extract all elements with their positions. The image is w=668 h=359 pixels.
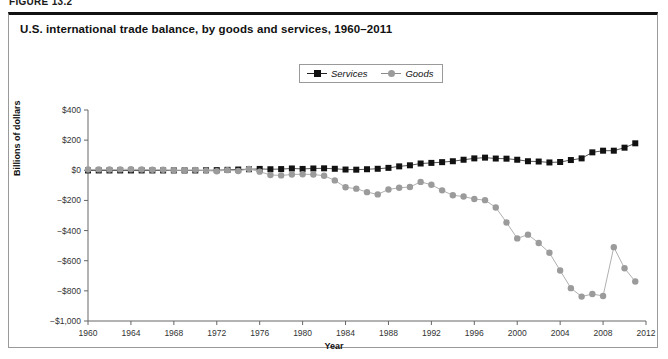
data-point-goods <box>149 166 155 172</box>
data-point-goods <box>138 166 144 172</box>
data-point-goods <box>171 167 177 173</box>
data-point-goods <box>578 293 584 299</box>
y-axis-tick-label: −$400 <box>57 226 81 236</box>
x-axis-tick-label: 1984 <box>336 328 355 338</box>
data-point-goods <box>364 189 370 195</box>
series-line-services <box>88 143 635 170</box>
x-axis-tick-label: 1968 <box>164 328 183 338</box>
data-point-goods <box>278 172 284 178</box>
data-point-services <box>461 157 467 163</box>
x-axis-tick-label: 2004 <box>551 328 570 338</box>
data-point-services <box>385 165 391 171</box>
data-point-goods <box>235 168 241 174</box>
data-point-services <box>278 166 284 172</box>
data-point-goods <box>246 166 252 172</box>
x-axis-tick-label: 1988 <box>379 328 398 338</box>
data-point-goods <box>214 168 220 174</box>
data-point-goods <box>471 196 477 202</box>
data-point-goods <box>439 187 445 193</box>
data-point-goods <box>428 182 434 188</box>
line-chart-plot: $400$200$0−$200−$400−$600−$800−$1,000196… <box>0 0 668 359</box>
data-point-goods <box>332 177 338 183</box>
data-point-services <box>321 165 327 171</box>
data-point-goods <box>514 235 520 241</box>
data-point-goods <box>267 172 273 178</box>
data-point-services <box>514 157 520 163</box>
data-point-services <box>568 157 574 163</box>
data-point-services <box>611 148 617 154</box>
data-point-services <box>310 165 316 171</box>
y-axis-tick-label: $400 <box>62 105 81 115</box>
data-point-goods <box>535 240 541 246</box>
data-point-goods <box>493 204 499 210</box>
y-axis-tick-label: $200 <box>62 135 81 145</box>
data-point-services <box>343 167 349 173</box>
data-point-goods <box>460 193 466 199</box>
data-point-goods <box>289 171 295 177</box>
data-point-services <box>493 156 499 162</box>
data-point-services <box>375 166 381 172</box>
data-point-services <box>525 158 531 164</box>
data-point-goods <box>96 166 102 172</box>
x-axis-tick-label: 2012 <box>637 328 656 338</box>
series-line-goods <box>88 169 635 297</box>
data-point-goods <box>256 168 262 174</box>
data-point-goods <box>503 219 509 225</box>
data-point-goods <box>482 197 488 203</box>
data-point-goods <box>353 185 359 191</box>
data-point-goods <box>557 267 563 273</box>
data-point-services <box>267 166 273 172</box>
data-point-services <box>439 159 445 165</box>
data-point-services <box>482 155 488 161</box>
data-point-goods <box>321 173 327 179</box>
x-axis-tick-label: 2008 <box>594 328 613 338</box>
data-point-goods <box>621 265 627 271</box>
data-point-goods <box>525 231 531 237</box>
data-point-goods <box>117 166 123 172</box>
data-point-services <box>546 159 552 165</box>
data-point-services <box>589 149 595 155</box>
data-point-goods <box>85 166 91 172</box>
data-point-services <box>450 158 456 164</box>
x-axis-tick-label: 1960 <box>79 328 98 338</box>
y-axis-tick-label: −$800 <box>57 286 81 296</box>
x-axis-tick-label: 1964 <box>121 328 140 338</box>
data-point-goods <box>450 192 456 198</box>
data-point-services <box>396 163 402 169</box>
data-point-goods <box>417 179 423 185</box>
data-point-goods <box>224 167 230 173</box>
y-axis-tick-label: −$600 <box>57 256 81 266</box>
data-point-services <box>289 165 295 171</box>
y-axis-tick-label: $0 <box>72 165 82 175</box>
data-point-services <box>471 155 477 161</box>
data-point-services <box>428 160 434 166</box>
data-point-goods <box>106 166 112 172</box>
y-axis-title: Billions of dollars <box>12 100 22 176</box>
x-axis-tick-label: 2000 <box>508 328 527 338</box>
data-point-goods <box>385 186 391 192</box>
data-point-services <box>332 166 338 172</box>
x-axis-tick-label: 1972 <box>207 328 226 338</box>
data-point-goods <box>407 184 413 190</box>
data-point-services <box>364 166 370 172</box>
data-point-services <box>418 161 424 167</box>
data-point-goods <box>310 171 316 177</box>
data-point-goods <box>299 171 305 177</box>
data-point-goods <box>611 244 617 250</box>
figure-page: FIGURE 13.2 U.S. international trade bal… <box>0 0 668 359</box>
data-point-goods <box>600 293 606 299</box>
data-point-goods <box>181 167 187 173</box>
x-axis-title: Year <box>0 341 668 351</box>
data-point-goods <box>203 167 209 173</box>
data-point-goods <box>128 166 134 172</box>
data-point-services <box>557 159 563 165</box>
data-point-services <box>632 140 638 146</box>
x-axis-tick-label: 1996 <box>465 328 484 338</box>
data-point-goods <box>396 185 402 191</box>
data-point-goods <box>160 166 166 172</box>
data-point-services <box>504 156 510 162</box>
x-axis-tick-label: 1976 <box>250 328 269 338</box>
data-point-goods <box>632 278 638 284</box>
y-axis-tick-label: −$200 <box>57 195 81 205</box>
x-axis-tick-label: 1992 <box>422 328 441 338</box>
